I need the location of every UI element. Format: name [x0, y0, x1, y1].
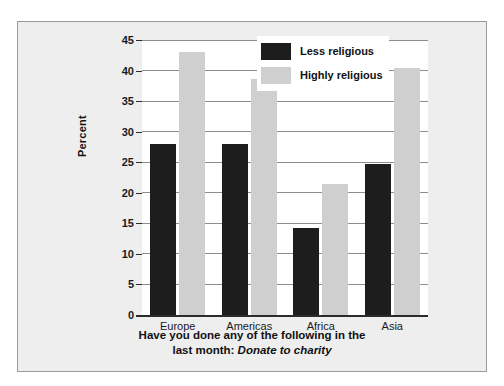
bar-africa-less-religious: [293, 228, 319, 315]
y-axis-tick-mark: [136, 40, 142, 41]
y-axis-tick-label: 35: [106, 96, 134, 107]
bar-americas-highly-religious: [251, 79, 277, 316]
legend-swatch-less-religious: [261, 43, 291, 60]
bar-europe-less-religious: [150, 144, 176, 315]
legend-item-less-religious: Less religious: [261, 39, 383, 63]
bar-asia-highly-religious: [394, 68, 420, 316]
caption-line-1: Have you done any of the following in th…: [18, 328, 486, 343]
y-axis-tick-label: 10: [106, 249, 134, 260]
bar-africa-highly-religious: [322, 184, 348, 315]
y-axis-tick-mark: [136, 315, 142, 316]
legend-label: Highly religious: [300, 69, 383, 81]
y-axis-tick-mark: [136, 193, 142, 194]
y-axis-tick-mark: [136, 162, 142, 163]
bar-americas-less-religious: [222, 144, 248, 315]
chart-legend: Less religiousHighly religious: [257, 36, 389, 91]
caption-line-2: last month: Donate to charity: [18, 343, 486, 358]
y-axis-tick-mark: [136, 71, 142, 72]
y-axis-tick-labels: 051015202530354045: [102, 22, 134, 373]
x-axis-line: [136, 315, 428, 317]
y-axis-tick-label: 40: [106, 66, 134, 77]
figure-panel: 051015202530354045 Percent EuropeAmerica…: [17, 21, 487, 372]
legend-swatch-highly-religious: [261, 67, 291, 84]
legend-item-highly-religious: Highly religious: [261, 63, 383, 87]
legend-label: Less religious: [300, 45, 374, 57]
bar-europe-highly-religious: [179, 52, 205, 315]
y-axis-tick-label: 15: [106, 218, 134, 229]
y-axis-tick-mark: [136, 132, 142, 133]
bar-asia-less-religious: [365, 164, 391, 315]
caption-line-2-emphasis: Donate to charity: [238, 344, 332, 356]
y-axis-tick-mark: [136, 284, 142, 285]
y-axis-tick-mark: [136, 101, 142, 102]
y-axis-tick-label: 45: [106, 35, 134, 46]
caption-line-2-prefix: last month:: [172, 344, 237, 356]
y-axis-tick-label: 25: [106, 157, 134, 168]
y-axis-title: Percent: [76, 115, 88, 157]
y-axis-tick-label: 0: [106, 310, 134, 321]
y-axis-tick-label: 20: [106, 188, 134, 199]
y-axis-tick-mark: [136, 254, 142, 255]
y-axis-tick-mark: [136, 223, 142, 224]
y-axis-tick-label: 30: [106, 127, 134, 138]
y-axis-tick-label: 5: [106, 279, 134, 290]
chart-caption: Have you done any of the following in th…: [18, 328, 486, 358]
